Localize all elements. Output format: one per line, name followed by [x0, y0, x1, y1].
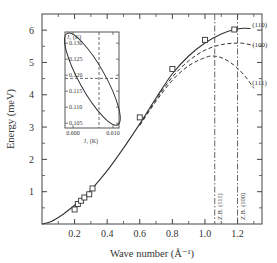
square-marker: [87, 192, 92, 197]
branch-label: (100): [252, 41, 268, 49]
x-tick-label: 1.0: [199, 228, 212, 239]
x-tick-label: 0.8: [166, 228, 179, 239]
x-tick-label: 0.4: [101, 228, 114, 239]
x-axis-title: Wave number (Å⁻¹): [110, 248, 195, 260]
inset-plot: 0.1050.1100.1150.1200.1250.1300.6000.610…: [56, 27, 130, 145]
curve-111: [140, 56, 254, 125]
zone-boundary-label: Z.B. (111): [216, 193, 224, 220]
phonon-dispersion-chart: 0.20.40.60.81.01.2 123456 Z.B. (111)Z.B.…: [0, 0, 277, 263]
x-tick-label: 0.2: [68, 228, 81, 239]
y-tick-label: 2: [29, 154, 34, 165]
x-tick-label: 0.6: [134, 228, 147, 239]
inset-x-title: J₁ (K): [84, 138, 98, 145]
square-marker: [202, 37, 207, 42]
x-tick-label: 1.2: [231, 228, 244, 239]
branch-label: (110): [252, 21, 268, 29]
inset-y-title: J₂ (K): [67, 34, 81, 41]
inset-y-tick-label: 0.125: [69, 56, 83, 62]
y-tick-label: 5: [29, 57, 34, 68]
square-marker: [90, 186, 95, 191]
inset-x-tick-label: 0.600: [66, 130, 80, 136]
inset-y-tick-label: 0.110: [69, 104, 82, 110]
square-marker: [232, 27, 237, 32]
y-tick-label: 3: [29, 122, 34, 133]
inset-frame: [65, 32, 119, 128]
square-marker: [82, 195, 87, 200]
curve-100: [140, 43, 254, 124]
y-tick-label: 6: [29, 25, 34, 36]
inset-x-tick-label: 0.610: [106, 130, 120, 136]
square-marker: [170, 66, 175, 71]
branch-label: (111): [252, 79, 267, 87]
y-tick-label: 4: [29, 89, 34, 100]
inset-y-tick-label: 0.105: [69, 120, 83, 126]
y-axis-title: Energy (meV): [5, 88, 17, 149]
square-marker: [72, 207, 77, 212]
zone-boundary-lines: Z.B. (111)Z.B. (100): [215, 14, 247, 224]
square-marker: [137, 115, 142, 120]
inset-y-tick-label: 0.115: [69, 88, 82, 94]
y-tick-label: 1: [29, 186, 34, 197]
zone-boundary-label: Z.B. (100): [239, 193, 247, 220]
branch-labels: (110)(100)(111): [252, 21, 268, 87]
